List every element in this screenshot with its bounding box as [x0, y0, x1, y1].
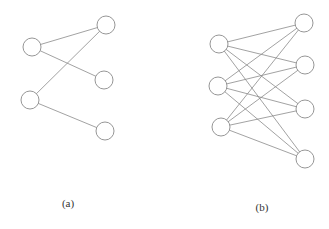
right-node-4: [296, 150, 314, 168]
graph-a-nodes: [21, 16, 115, 140]
left-node-1: [210, 35, 228, 53]
left-node-2: [21, 91, 39, 109]
edge: [30, 100, 105, 131]
right-node-1: [295, 14, 313, 32]
graph-a-edges: [30, 25, 106, 131]
caption-a: (a): [62, 197, 75, 210]
right-node-2: [95, 71, 113, 89]
edge: [219, 23, 304, 44]
right-node-3: [96, 122, 114, 140]
left-node-2: [209, 77, 227, 95]
edge: [221, 127, 305, 159]
right-node-2: [296, 56, 314, 74]
edge: [218, 65, 305, 86]
graph-a: (a): [21, 16, 115, 210]
graph-b-edges: [218, 23, 305, 159]
right-node-1: [97, 16, 115, 34]
left-node-3: [212, 118, 230, 136]
graph-b: (b): [209, 14, 314, 214]
edge: [32, 47, 104, 80]
graph-b-nodes: [209, 14, 314, 168]
left-node-1: [23, 38, 41, 56]
caption-b: (b): [256, 201, 269, 214]
diagram-canvas: (a) (b): [0, 0, 329, 229]
right-node-3: [296, 100, 314, 118]
edge: [219, 44, 305, 159]
